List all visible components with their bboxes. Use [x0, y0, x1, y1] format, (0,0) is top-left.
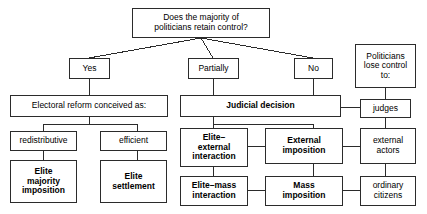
node-no: No	[294, 58, 333, 79]
node-redistributive: redistributive	[10, 131, 77, 151]
node-mass-imposition: Mass imposition	[265, 176, 343, 206]
node-yes: Yes	[69, 58, 110, 79]
node-elite-mass-interaction: Elite–mass interaction	[180, 176, 248, 206]
node-elite-settlement: Elite settlement	[100, 160, 167, 203]
node-partially: Partially	[188, 58, 239, 79]
node-electoral-reform: Electoral reform conceived as:	[10, 95, 168, 117]
node-elite-external-interaction: Elite– external interaction	[180, 128, 248, 167]
node-external-actors: external actors	[360, 128, 416, 164]
node-politicians-lose-control: Politicians lose control to:	[355, 44, 416, 88]
node-elite-majority-imposition: Elite majority imposition	[10, 160, 77, 203]
node-efficient: efficient	[100, 131, 167, 151]
node-ordinary-citizens: ordinary citizens	[360, 176, 416, 206]
node-external-imposition: External imposition	[265, 128, 343, 164]
node-judges: judges	[360, 99, 411, 118]
node-judicial-decision: Judicial decision	[180, 95, 341, 117]
node-root: Does the majority of politicians retain …	[132, 8, 270, 38]
flowchart-diagram: Does the majority of politicians retain …	[0, 0, 427, 214]
